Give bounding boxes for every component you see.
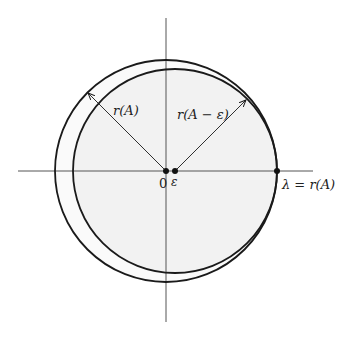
epsilon-label: ε [171, 175, 177, 189]
lambda-label: λ = r(A) [281, 177, 335, 192]
lambda-point [274, 168, 280, 174]
inner-radius-label: r(A − ε) [177, 107, 229, 122]
outer-radius-label: r(A) [113, 103, 139, 118]
origin-point [163, 168, 169, 174]
spectral-radius-diagram: r(A) r(A − ε) 0 ε λ = r(A) [0, 0, 349, 338]
epsilon-point [172, 168, 178, 174]
origin-label: 0 [159, 176, 167, 191]
